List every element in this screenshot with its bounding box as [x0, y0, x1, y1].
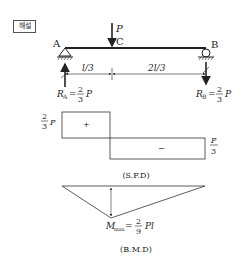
sfd-positive-sign: + — [83, 120, 90, 129]
svg-text:2: 2 — [217, 85, 222, 94]
sfd-right-value: P 3 — [210, 136, 218, 156]
svg-text:2: 2 — [136, 217, 141, 226]
bmd-caption: (B.M.D) — [120, 245, 152, 254]
svg-text:3: 3 — [78, 95, 83, 104]
sfd-left-value: 2 3 P — [41, 112, 56, 131]
load-label: P — [115, 23, 123, 34]
svg-text:P: P — [210, 136, 217, 145]
svg-text:P: P — [224, 89, 232, 99]
svg-text:P: P — [49, 118, 56, 127]
reaction-b-label: R B = 2 3 P — [195, 85, 232, 104]
svg-text:2: 2 — [78, 85, 83, 94]
beam-diagram: P C A B l/3 2l/3 R A = 2 3 P — [0, 0, 244, 266]
svg-text:3: 3 — [42, 122, 47, 131]
svg-text:3: 3 — [217, 95, 222, 104]
support-b-label: B — [211, 39, 218, 50]
svg-text:=: = — [208, 89, 216, 99]
reaction-arrow-a — [61, 64, 68, 87]
svg-text:2: 2 — [42, 112, 47, 121]
roller-support-b — [198, 49, 214, 60]
reaction-a-label: R A = 2 3 P — [56, 85, 93, 104]
point-c-label: C — [116, 36, 124, 47]
sfd-negative-sign: − — [158, 144, 165, 153]
svg-text:P: P — [85, 89, 93, 99]
span-right-label: 2l/3 — [147, 63, 166, 73]
svg-text:3: 3 — [211, 147, 216, 156]
svg-text:=: = — [69, 89, 77, 99]
support-a-label: A — [52, 38, 61, 49]
span-left-label: l/3 — [82, 63, 94, 73]
svg-text:=: = — [125, 221, 133, 231]
sfd-caption: (S.F.D) — [122, 171, 149, 180]
svg-text:9: 9 — [136, 227, 141, 236]
svg-text:B: B — [202, 93, 207, 100]
svg-text:Pl: Pl — [144, 221, 154, 231]
svg-text:A: A — [62, 93, 68, 100]
pin-support-a — [57, 48, 73, 60]
svg-text:max: max — [114, 226, 125, 232]
bmd-max-label: M max = 2 9 Pl — [105, 217, 154, 236]
bending-moment-diagram — [62, 186, 205, 218]
reaction-arrow-b — [203, 62, 209, 84]
